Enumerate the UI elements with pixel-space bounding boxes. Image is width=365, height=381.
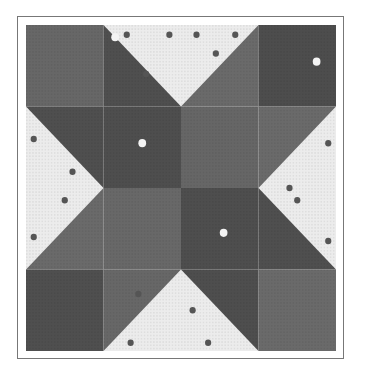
quilt-block-photo [26,25,336,351]
quilt-pattern [26,25,336,351]
